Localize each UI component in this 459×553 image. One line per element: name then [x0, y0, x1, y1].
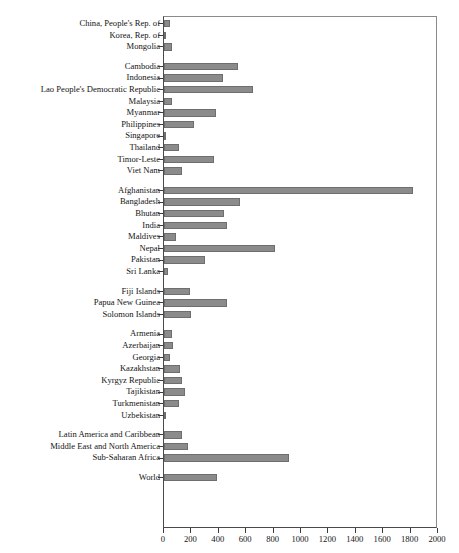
x-axis-tick	[163, 528, 164, 533]
bar-row: Armenia	[0, 328, 459, 340]
bar-row: Pakistan	[0, 254, 459, 266]
bar-row: Turkmenistan	[0, 398, 459, 410]
category-label: Georgia	[132, 352, 160, 364]
bar	[164, 74, 223, 81]
x-axis-tick	[382, 528, 383, 533]
bar	[164, 288, 190, 295]
bar	[164, 121, 194, 128]
bar	[164, 222, 227, 229]
bar	[164, 256, 205, 263]
bar	[164, 388, 185, 395]
category-label: Indonesia	[127, 72, 160, 84]
bar	[164, 98, 172, 105]
category-tick	[158, 415, 163, 416]
category-tick	[158, 477, 163, 478]
category-tick	[158, 46, 163, 47]
bar-row: Korea, Rep. of	[0, 30, 459, 42]
category-label: Lao People's Democratic Republic	[41, 84, 160, 96]
category-label: China, People's Rep. of	[79, 18, 160, 30]
category-label: Bangladesh	[120, 196, 160, 208]
category-label: Kyrgyz Republic	[101, 375, 160, 387]
category-tick	[158, 302, 163, 303]
bar	[164, 132, 166, 139]
category-label: Latin America and Caribbean	[59, 429, 160, 441]
category-label: Cambodia	[125, 61, 160, 73]
bar	[164, 187, 413, 194]
category-label: Sub-Saharan Africa	[92, 452, 160, 464]
category-tick	[158, 271, 163, 272]
x-axis-tick	[327, 528, 328, 533]
category-tick	[158, 202, 163, 203]
category-tick	[158, 345, 163, 346]
bar	[164, 156, 214, 163]
category-tick	[158, 392, 163, 393]
bar	[164, 233, 176, 240]
category-tick	[158, 236, 163, 237]
bar-row: Bhutan	[0, 208, 459, 220]
bar-row: Maldives	[0, 231, 459, 243]
category-label: Azerbaijan	[122, 340, 160, 352]
category-tick	[158, 225, 163, 226]
bar	[164, 167, 182, 174]
bar-row: Thailand	[0, 142, 459, 154]
bar-row: Bangladesh	[0, 196, 459, 208]
bar	[164, 43, 172, 50]
x-axis-tick-label: 2000	[417, 534, 457, 544]
category-tick	[158, 147, 163, 148]
category-tick	[158, 380, 163, 381]
chart-title	[120, 0, 420, 7]
category-tick	[158, 213, 163, 214]
category-label: Tajikistan	[126, 386, 160, 398]
bar	[164, 210, 224, 217]
category-label: Thailand	[129, 142, 160, 154]
category-label: Uzbekistan	[121, 410, 160, 422]
category-label: Kazakhstan	[120, 363, 160, 375]
bar	[164, 454, 289, 461]
category-label: Singapore	[125, 130, 160, 142]
bar-row: Tajikistan	[0, 386, 459, 398]
x-axis-tick	[190, 528, 191, 533]
bar-row: World	[0, 472, 459, 484]
bar	[164, 342, 173, 349]
category-label: Armenia	[130, 328, 160, 340]
bar-row: Kazakhstan	[0, 363, 459, 375]
x-axis-tick	[245, 528, 246, 533]
category-tick	[158, 368, 163, 369]
category-tick	[158, 357, 163, 358]
bar-row: Singapore	[0, 130, 459, 142]
category-tick	[158, 23, 163, 24]
category-tick	[158, 159, 163, 160]
x-axis-tick	[218, 528, 219, 533]
category-tick	[158, 89, 163, 90]
bar-row: Cambodia	[0, 61, 459, 73]
category-label: Fiji Islands	[122, 286, 160, 298]
bar-row: Solomon Islands	[0, 309, 459, 321]
bar-row: Uzbekistan	[0, 410, 459, 422]
category-label: Myanmar	[127, 107, 160, 119]
bar	[164, 474, 217, 481]
category-label: Nepal	[139, 243, 160, 255]
category-label: Papua New Guinea	[94, 297, 160, 309]
category-label: Turkmenistan	[113, 398, 160, 410]
x-axis-tick	[355, 528, 356, 533]
category-tick	[158, 190, 163, 191]
bar-row: Middle East and North America	[0, 441, 459, 453]
bar	[164, 377, 182, 384]
bar-row: Kyrgyz Republic	[0, 375, 459, 387]
bar	[164, 20, 170, 27]
bar	[164, 412, 166, 419]
bar-rows-container: China, People's Rep. ofKorea, Rep. ofMon…	[0, 16, 459, 528]
bar	[164, 32, 166, 39]
bar	[164, 198, 240, 205]
x-axis-tick	[273, 528, 274, 533]
bar	[164, 311, 191, 318]
bar	[164, 144, 179, 151]
category-label: Solomon Islands	[102, 309, 160, 321]
category-label: Bhutan	[135, 208, 160, 220]
category-label: Timor-Leste	[118, 154, 160, 166]
bar	[164, 268, 168, 275]
category-label: Philippines	[121, 119, 160, 131]
bar-row: Fiji Islands	[0, 286, 459, 298]
category-tick	[158, 124, 163, 125]
bar-row: Timor-Leste	[0, 154, 459, 166]
